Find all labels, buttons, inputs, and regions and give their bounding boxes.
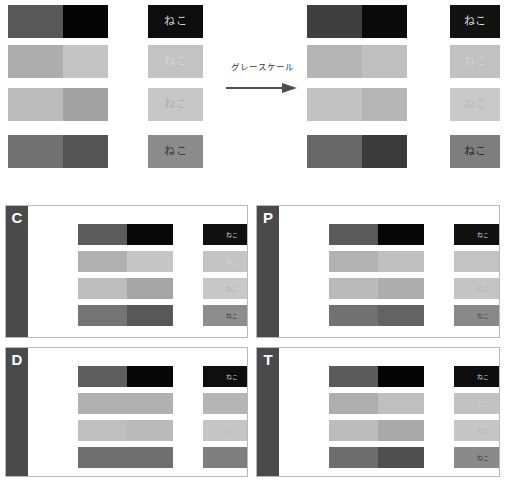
swatch-half-right — [127, 366, 173, 387]
color-pair-swatch — [78, 420, 173, 441]
text-contrast-sample: ねこ — [203, 305, 248, 326]
swatch-half-left — [78, 447, 127, 468]
swatch-half-right — [127, 251, 173, 272]
swatch-half-left — [329, 251, 378, 272]
swatch-half-right — [362, 135, 407, 168]
text-contrast-sample: ねこ — [203, 447, 248, 468]
swatch-half-left — [78, 251, 127, 272]
swatch-half-right — [127, 278, 173, 299]
color-pair-swatch — [307, 88, 407, 121]
swatch-half-left — [78, 393, 127, 414]
text-contrast-sample: ねこ — [454, 420, 500, 441]
panel-letter-label: P — [257, 208, 279, 228]
grayscale-comparison-section: ねこねこねこねこ グレースケール ねこねこねこねこ — [0, 0, 506, 190]
text-contrast-sample: ねこ — [203, 366, 248, 387]
color-pair-swatch — [329, 366, 424, 387]
swatch-half-right — [127, 420, 173, 441]
swatch-half-right — [63, 5, 108, 38]
swatch-half-left — [8, 88, 63, 121]
swatch-half-right — [362, 5, 407, 38]
panel-content: ねこねこねこねこ — [279, 206, 499, 337]
color-pair-swatch — [8, 88, 108, 121]
swatch-half-left — [307, 135, 362, 168]
text-contrast-sample: ねこ — [454, 366, 500, 387]
color-pair-swatch — [307, 5, 407, 38]
swatch-half-left — [329, 278, 378, 299]
swatch-half-right — [378, 305, 424, 326]
panel-content: ねこねこねこねこ — [28, 348, 247, 476]
swatch-half-left — [78, 278, 127, 299]
text-contrast-sample: ねこ — [148, 135, 203, 168]
swatch-half-right — [63, 45, 108, 78]
color-pair-swatch — [329, 447, 424, 468]
color-pair-swatch — [78, 278, 173, 299]
swatch-half-right — [127, 305, 173, 326]
swatch-half-right — [362, 45, 407, 78]
panel-letter-label: T — [257, 350, 279, 370]
panel-d: Dねこねこねこねこ — [5, 347, 248, 477]
swatch-half-right — [378, 278, 424, 299]
color-pair-swatch — [329, 305, 424, 326]
text-contrast-sample: ねこ — [450, 5, 500, 38]
text-contrast-sample: ねこ — [148, 88, 203, 121]
color-pair-swatch — [78, 305, 173, 326]
swatch-half-right — [378, 224, 424, 245]
text-contrast-sample: ねこ — [148, 45, 203, 78]
swatch-half-left — [329, 366, 378, 387]
text-contrast-sample: ねこ — [454, 393, 500, 414]
color-pair-swatch — [307, 45, 407, 78]
color-pair-swatch — [329, 420, 424, 441]
panel-c: Cねこねこねこねこ — [5, 205, 248, 338]
color-pair-swatch — [78, 447, 173, 468]
panel-t: Tねこねこねこねこ — [256, 347, 500, 477]
swatch-half-left — [307, 45, 362, 78]
color-pair-swatch — [329, 393, 424, 414]
swatch-half-right — [362, 88, 407, 121]
swatch-half-left — [8, 5, 63, 38]
swatch-half-left — [329, 447, 378, 468]
color-pair-swatch — [78, 224, 173, 245]
text-contrast-sample: ねこ — [203, 251, 248, 272]
text-contrast-sample: ねこ — [454, 224, 500, 245]
text-contrast-sample: ねこ — [450, 45, 500, 78]
swatch-half-left — [307, 5, 362, 38]
swatch-half-right — [378, 447, 424, 468]
panel-content: ねこねこねこねこ — [28, 206, 247, 337]
text-contrast-sample: ねこ — [454, 278, 500, 299]
text-contrast-sample: ねこ — [203, 393, 248, 414]
grayscale-conversion-label: グレースケール — [218, 60, 306, 72]
color-pair-swatch — [78, 251, 173, 272]
swatch-half-right — [127, 393, 173, 414]
swatch-half-left — [329, 224, 378, 245]
swatch-half-right — [378, 393, 424, 414]
swatch-half-left — [8, 135, 63, 168]
swatch-half-right — [127, 447, 173, 468]
swatch-half-left — [329, 305, 378, 326]
panel-letter-label: C — [6, 208, 28, 228]
swatch-half-right — [63, 88, 108, 121]
color-pair-swatch — [8, 45, 108, 78]
color-pair-swatch — [78, 366, 173, 387]
swatch-half-right — [378, 420, 424, 441]
panel-content: ねこねこねこねこ — [279, 348, 499, 476]
swatch-half-right — [378, 366, 424, 387]
swatch-half-right — [63, 135, 108, 168]
text-contrast-sample: ねこ — [203, 278, 248, 299]
color-pair-swatch — [78, 393, 173, 414]
color-pair-swatch — [8, 135, 108, 168]
text-contrast-sample: ねこ — [203, 420, 248, 441]
panel-letter-label: D — [6, 350, 28, 370]
right-arrow-icon — [226, 82, 298, 94]
swatch-half-left — [78, 420, 127, 441]
text-contrast-sample: ねこ — [454, 305, 500, 326]
swatch-half-left — [8, 45, 63, 78]
swatch-half-left — [78, 305, 127, 326]
color-pair-swatch — [8, 5, 108, 38]
swatch-half-left — [78, 224, 127, 245]
color-pair-swatch — [329, 224, 424, 245]
text-contrast-sample: ねこ — [454, 447, 500, 468]
text-contrast-sample: ねこ — [450, 135, 500, 168]
text-contrast-sample: ねこ — [450, 88, 500, 121]
swatch-half-left — [307, 88, 362, 121]
swatch-half-left — [329, 393, 378, 414]
